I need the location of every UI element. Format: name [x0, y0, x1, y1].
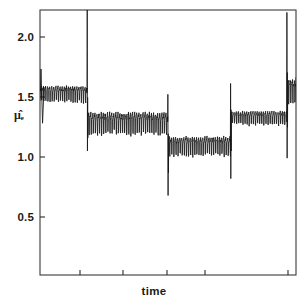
plot-canvas: [0, 0, 308, 305]
figure-container: 2.0 1.5 1.0 0.5 μ̂ₑ time: [0, 0, 308, 305]
axis-ticks: [40, 37, 288, 275]
data-series-line: [40, 10, 296, 196]
